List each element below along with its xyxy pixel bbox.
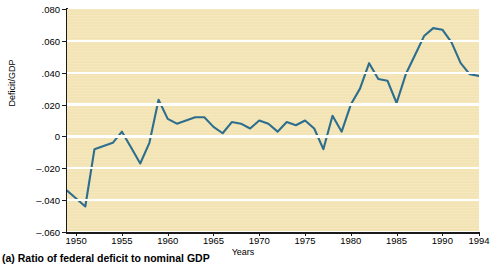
gridline (67, 72, 479, 74)
y-tick-label: .020 (24, 99, 60, 110)
x-tick-label: 1965 (203, 235, 224, 246)
gridline (67, 40, 479, 42)
plot-area (67, 9, 479, 232)
gridline (67, 135, 479, 137)
x-tick-label: 1980 (340, 235, 361, 246)
y-tick-mark (62, 200, 67, 201)
y-tick-mark (62, 9, 67, 10)
y-tick-label: 0 (24, 131, 60, 142)
x-tick-mark (168, 232, 169, 236)
y-tick-label: –.040 (24, 195, 60, 206)
y-tick-mark (62, 73, 67, 74)
x-tick-mark (351, 232, 352, 236)
x-tick-mark (122, 232, 123, 236)
y-tick-mark (62, 136, 67, 137)
y-tick-label: .080 (24, 4, 60, 15)
gridline (67, 103, 479, 105)
x-tick-label: 1994 (468, 235, 489, 246)
y-tick-label: –.020 (24, 163, 60, 174)
y-tick-mark (62, 105, 67, 106)
x-tick-label: 1950 (66, 235, 87, 246)
y-tick-mark (62, 168, 67, 169)
x-tick-mark (305, 232, 306, 236)
x-tick-label: 1975 (294, 235, 315, 246)
x-tick-label: 1960 (157, 235, 178, 246)
gridline (67, 167, 479, 169)
y-axis-title: Deficit/GDP (7, 47, 17, 119)
x-tick-label: 1990 (432, 235, 453, 246)
x-tick-label: 1955 (111, 235, 132, 246)
y-tick-label: .040 (24, 67, 60, 78)
x-tick-mark (259, 232, 260, 236)
figure-caption: (a) Ratio of federal deficit to nominal … (2, 252, 210, 264)
gridline (67, 199, 479, 201)
x-tick-mark (442, 232, 443, 236)
series-line (67, 28, 479, 206)
x-tick-mark (213, 232, 214, 236)
y-tick-mark (62, 41, 67, 42)
x-tick-mark (397, 232, 398, 236)
gridline (67, 231, 479, 232)
x-tick-label: 1970 (249, 235, 270, 246)
y-axis-tick-labels: .080.060.040.0200–.020–.040–.060 (24, 0, 60, 240)
y-tick-mark (62, 232, 67, 233)
x-axis-line (66, 232, 479, 234)
x-tick-mark (76, 232, 77, 236)
x-tick-label: 1985 (386, 235, 407, 246)
x-tick-mark (479, 232, 480, 236)
y-tick-label: .060 (24, 35, 60, 46)
